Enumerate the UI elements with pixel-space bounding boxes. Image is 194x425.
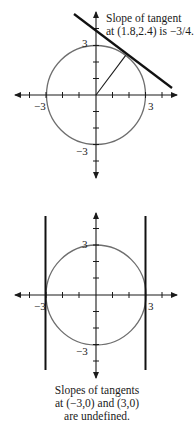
top-caption: Slope of tangent at (1.8,2.4) is −3/4. xyxy=(106,12,194,38)
bottom-caption-line-1: Slopes of tangents xyxy=(0,384,194,397)
top-caption-line-1: Slope of tangent xyxy=(106,12,194,25)
top-x-label-3: 3 xyxy=(148,101,154,112)
top-caption-line-2: at (1.8,2.4) is −3/4. xyxy=(106,25,194,38)
bottom-y-label-3: 3 xyxy=(82,239,88,250)
bottom-caption-line-3: are undefined. xyxy=(0,410,194,423)
bottom-caption-line-2: at (−3,0) and (3,0) xyxy=(0,397,194,410)
bottom-caption: Slopes of tangents at (−3,0) and (3,0) a… xyxy=(0,384,194,423)
bottom-figure xyxy=(15,213,177,378)
top-y-label-3: 3 xyxy=(82,38,88,49)
diagram-canvas xyxy=(0,0,194,425)
bottom-x-label-3: 3 xyxy=(148,301,154,312)
top-y-label-neg3: −3 xyxy=(76,146,88,157)
top-x-label-neg3: −3 xyxy=(34,101,46,112)
bottom-y-label-neg3: −3 xyxy=(76,346,88,357)
top-radius xyxy=(96,55,126,95)
bottom-x-label-neg3: −3 xyxy=(34,301,46,312)
